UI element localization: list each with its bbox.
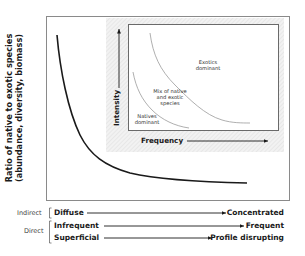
region-mix: Mix of native and exotic species: [150, 88, 190, 107]
indirect-bracket: [50, 208, 52, 218]
y-axis-label-line1: Ratio of native to exotic species: [4, 8, 14, 208]
gradient-to-profile-disrupting: Profile disrupting: [210, 233, 284, 242]
gradient-from-infrequent: Infrequent: [54, 221, 99, 230]
y-axis-label: Ratio of native to exotic species (abund…: [4, 8, 24, 208]
y-axis-label-line2: (abundance, diversity, biomass): [14, 8, 24, 208]
diagram-canvas: [0, 0, 305, 256]
gradient-from-diffuse: Diffuse: [54, 208, 84, 217]
indirect-label: Indirect: [17, 209, 42, 217]
direct-label: Direct: [24, 227, 43, 235]
gradient-to-frequent: Frequent: [246, 221, 284, 230]
gradient-from-superficial: Superficial: [54, 233, 99, 242]
intensity-label: Intensity: [112, 90, 121, 126]
region-exotics-dominant: Exotics dominant: [190, 59, 226, 71]
frequency-label: Frequency: [141, 136, 183, 145]
region-natives-dominant: Natives dominant: [133, 113, 161, 125]
gradient-to-concentrated: Concentrated: [227, 208, 284, 217]
direct-bracket: [50, 221, 52, 243]
